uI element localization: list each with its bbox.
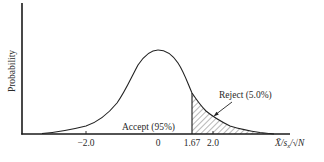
x-axis-label-tail: /√N bbox=[289, 138, 305, 148]
probability-distribution-chart: Probability −2.0 0 1.67 2.0 X̄/sx/√N Acc… bbox=[0, 0, 324, 162]
tick-label-0: 0 bbox=[156, 138, 161, 148]
svg-text:X̄/sx/√N: X̄/sx/√N bbox=[274, 138, 305, 149]
y-axis-label: Probability bbox=[7, 50, 17, 92]
reject-arrow-icon bbox=[214, 102, 233, 117]
tick-label-1-67: 1.67 bbox=[184, 138, 201, 148]
x-axis-label: X̄/sx/√N bbox=[274, 138, 305, 149]
x-axis-label-main: X̄/s bbox=[274, 138, 287, 148]
reject-label: Reject (5.0%) bbox=[219, 90, 272, 101]
tick-label-2: 2.0 bbox=[207, 138, 219, 148]
tick-label-neg2: −2.0 bbox=[77, 138, 94, 148]
accept-label: Accept (95%) bbox=[122, 122, 175, 133]
